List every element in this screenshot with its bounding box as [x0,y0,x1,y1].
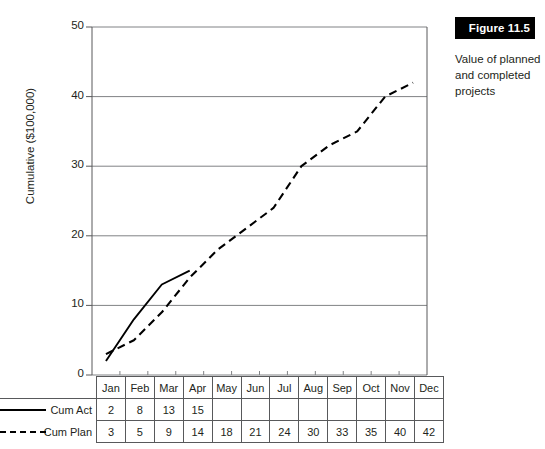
table-cell [357,399,386,421]
solid-line-icon [0,409,46,411]
table-cell: 5 [125,421,154,443]
table-cell [212,399,241,421]
table-cell: 24 [270,421,299,443]
table-header-mar: Mar [154,377,183,399]
table-cell [328,399,357,421]
legend-cell-cum-plan: Cum Plan [0,421,97,443]
table-header-may: May [212,377,241,399]
table-cell [414,399,443,421]
table-header-oct: Oct [357,377,386,399]
table-header-apr: Apr [183,377,212,399]
table-cell: 14 [183,421,212,443]
series-lines [106,83,413,361]
table-header-feb: Feb [125,377,154,399]
dashed-line-icon [0,431,46,433]
table-cell: 9 [154,421,183,443]
table-header-jun: Jun [241,377,270,399]
table-cell [241,399,270,421]
table-cell [386,399,415,421]
table-cell: 33 [328,421,357,443]
table-cell: 15 [183,399,212,421]
table-cell [299,399,328,421]
legend-cell-cum-act: Cum Act [0,399,97,421]
axis-frame [86,27,427,375]
legend-label: Cum Act [50,404,92,416]
table-cell: 35 [357,421,386,443]
table-cell: 40 [386,421,415,443]
data-table: JanFebMarAprMayJunJulAugSepOctNovDec Cum… [0,376,444,443]
table-header-aug: Aug [299,377,328,399]
table-header-nov: Nov [386,377,415,399]
table-row: Cum Plan359141821243033354042 [0,421,443,443]
table-cell: 13 [154,399,183,421]
table-cell: 18 [212,421,241,443]
table-header-row: JanFebMarAprMayJunJulAugSepOctNovDec [0,377,443,399]
figure-badge: Figure 11.5 [455,17,535,39]
legend-label: Cum Plan [44,426,92,438]
table-body: Cum Act281315Cum Plan3591418212430333540… [0,399,443,443]
table-header-jul: Jul [270,377,299,399]
table-cell: 42 [414,421,443,443]
table-header-sep: Sep [328,377,357,399]
table-cell: 8 [125,399,154,421]
figure-callout: Figure 11.5 Value of planned and complet… [455,0,535,99]
table-header-dec: Dec [414,377,443,399]
legend-header-spacer [0,377,97,399]
table-cell: 21 [241,421,270,443]
table-cell: 2 [97,399,126,421]
table-cell: 30 [299,421,328,443]
table-cell [270,399,299,421]
table-cell: 3 [97,421,126,443]
table-header-jan: Jan [97,377,126,399]
gridlines [92,27,427,375]
figure-caption: Value of planned and completed projects [455,51,545,99]
plot-area [0,0,440,400]
table-row: Cum Act281315 [0,399,443,421]
series-line-cum-plan [106,83,413,354]
